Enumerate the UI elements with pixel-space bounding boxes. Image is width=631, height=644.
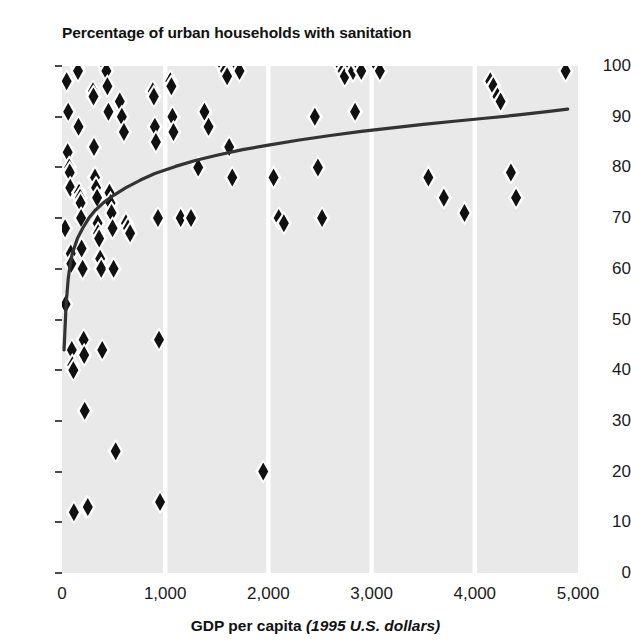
chart-title: Percentage of urban households with sani…: [62, 24, 411, 42]
y-axis-tick-label: 80: [587, 157, 631, 177]
x-axis-title-units: (1995 U.S. dollars): [306, 617, 440, 634]
y-axis-tick-label: 70: [587, 208, 631, 228]
y-axis-tick-label: 40: [587, 360, 631, 380]
y-axis-tick-mark: [55, 268, 62, 270]
y-axis-tick-mark: [55, 471, 62, 473]
x-axis: 01,0002,0003,0004,0005,000: [0, 584, 631, 610]
y-axis-tick-mark: [55, 521, 62, 523]
y-axis-tick-label: 0: [587, 563, 631, 583]
y-axis-tick-mark: [55, 166, 62, 168]
y-axis-tick-mark: [55, 319, 62, 321]
y-axis-tick-mark: [55, 217, 62, 219]
y-axis-tick-label: 100: [587, 56, 631, 76]
y-axis-tick-label: 60: [587, 259, 631, 279]
x-axis-tick-label: 0: [57, 584, 66, 604]
y-axis-tick-mark: [55, 65, 62, 67]
y-axis-tick-mark: [55, 572, 62, 574]
x-axis-title: GDP per capita (1995 U.S. dollars): [0, 617, 631, 635]
y-axis-tick-label: 50: [587, 310, 631, 330]
x-axis-title-main: GDP per capita: [191, 617, 302, 634]
x-axis-tick-label: 4,000: [454, 584, 497, 604]
x-axis-tick-label: 2,000: [247, 584, 290, 604]
y-axis-tick-label: 10: [587, 512, 631, 532]
x-axis-tick-label: 1,000: [144, 584, 187, 604]
y-axis-tick-mark: [55, 116, 62, 118]
y-axis: 0102030405060708090100: [0, 66, 631, 573]
y-axis-tick-label: 20: [587, 462, 631, 482]
x-axis-tick-label: 3,000: [350, 584, 393, 604]
x-axis-tick-label: 5,000: [557, 584, 600, 604]
y-axis-tick-label: 90: [587, 107, 631, 127]
y-axis-tick-label: 30: [587, 411, 631, 431]
y-axis-tick-mark: [55, 369, 62, 371]
y-axis-tick-mark: [55, 420, 62, 422]
chart-figure: Percentage of urban households with sani…: [0, 0, 631, 644]
